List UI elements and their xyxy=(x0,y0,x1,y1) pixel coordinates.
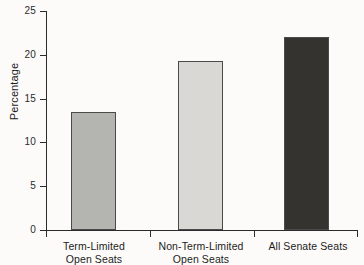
x-category-label-term-limited-line-1: Term-Limited xyxy=(52,240,136,253)
y-tick-mark-15 xyxy=(40,99,46,100)
y-tick-label-0: 0 xyxy=(14,225,36,235)
x-tick-mark-right-edge xyxy=(357,231,358,237)
y-tick-mark-20 xyxy=(40,55,46,56)
y-tick-label-25: 25 xyxy=(14,6,36,16)
x-category-label-term-limited-line-2: Open Seats xyxy=(52,253,136,265)
bar-all-senate-seats xyxy=(284,37,329,230)
bar-term-limited-open-seats xyxy=(71,112,116,230)
y-axis-line xyxy=(46,11,47,231)
y-tick-label-20: 20 xyxy=(14,50,36,60)
x-category-label-all-senate-seats: All Senate Seats xyxy=(258,240,358,253)
y-tick-label-15: 15 xyxy=(14,94,36,104)
x-category-label-all-senate-seats-line-1: All Senate Seats xyxy=(258,240,358,253)
x-tick-mark-divider-2 xyxy=(254,231,255,237)
x-category-label-term-limited: Term-Limited Open Seats xyxy=(52,240,136,265)
x-category-label-non-term-limited: Non-Term-Limited Open Seats xyxy=(148,240,254,265)
x-tick-mark-divider-1 xyxy=(150,231,151,237)
x-category-label-non-term-limited-line-1: Non-Term-Limited xyxy=(148,240,254,253)
y-tick-mark-5 xyxy=(40,186,46,187)
bar-non-term-limited-open-seats xyxy=(178,61,223,230)
x-tick-mark-left-edge xyxy=(46,231,47,237)
x-category-label-non-term-limited-line-2: Open Seats xyxy=(148,253,254,265)
y-tick-label-10: 10 xyxy=(14,137,36,147)
x-axis-line xyxy=(46,230,358,231)
y-tick-mark-10 xyxy=(40,142,46,143)
bar-chart: Percentage 25 20 15 10 5 0 Term-Limited … xyxy=(0,0,364,265)
y-tick-mark-25 xyxy=(40,11,46,12)
y-tick-label-5: 5 xyxy=(14,181,36,191)
